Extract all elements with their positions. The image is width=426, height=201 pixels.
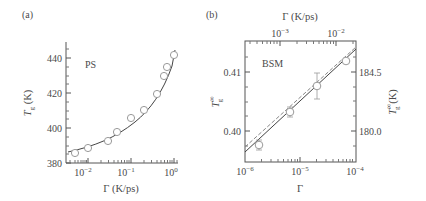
a-x-axis-title: Γ (K/ps) — [103, 183, 139, 195]
data-point — [84, 144, 91, 151]
data-point — [163, 63, 170, 70]
b-x2-tick-1e-3: 10−3 — [271, 27, 289, 39]
a-y-tick-400: 400 — [47, 123, 62, 134]
b-y-tick-0.40: 0.40 — [224, 126, 242, 137]
panel-a-label: (a) — [22, 9, 33, 21]
b-x2-tick-1e-2: 10−2 — [327, 27, 345, 39]
b-data-points — [255, 57, 350, 149]
b-left-y-axis-title: T∞g — [208, 97, 224, 108]
b-right-y-axis-title: T∞g (K) — [385, 89, 401, 115]
b-y-tick-0.41: 0.41 — [224, 67, 242, 78]
b-y2-tick-180.0: 180.0 — [359, 126, 382, 137]
a-x-tick-1e0: 100 — [164, 166, 178, 178]
a-y-axis-title: Tg (K) — [22, 89, 36, 116]
a-x-tick-1e-1: 10−1 — [117, 166, 135, 178]
data-point — [342, 57, 350, 65]
data-point — [153, 90, 160, 97]
a-y-tick-440: 440 — [47, 53, 62, 64]
a-inset-label: PS — [85, 59, 96, 70]
b-x-tick-1e-6: 10−6 — [236, 165, 254, 177]
b-top-x-axis-title: Γ (K/ps) — [282, 11, 318, 23]
data-point — [286, 108, 294, 116]
data-point — [71, 149, 78, 156]
data-point — [113, 128, 120, 135]
data-point — [255, 141, 263, 149]
data-point — [170, 51, 177, 58]
a-y-tick-380: 380 — [47, 158, 62, 169]
panel-b-label: (b) — [206, 9, 218, 21]
b-y2-tick-184.5: 184.5 — [359, 67, 382, 78]
panel-a-axes — [66, 42, 178, 163]
data-point — [160, 72, 167, 79]
b-inset-label: BSM — [262, 58, 283, 69]
b-bottom-x-axis-title: Γ — [297, 183, 303, 194]
data-point — [127, 114, 134, 121]
data-point — [104, 137, 111, 144]
data-point — [140, 106, 147, 113]
figure: (a) — [0, 0, 426, 201]
a-y-tick-420: 420 — [47, 88, 62, 99]
a-x-tick-1e-2: 10−2 — [74, 166, 92, 178]
b-x-tick-1e-5: 10−5 — [291, 165, 309, 177]
data-point — [313, 82, 321, 90]
b-x-tick-1e-4: 10−4 — [346, 165, 364, 177]
